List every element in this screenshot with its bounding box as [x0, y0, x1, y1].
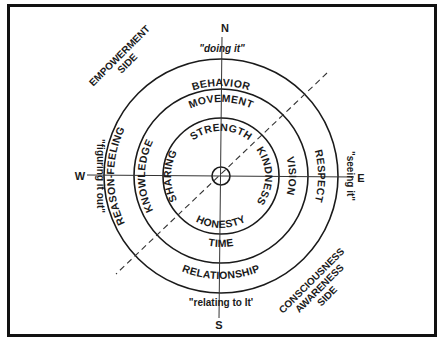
west-label: W [75, 170, 86, 182]
south-quote: "relating to It' [189, 297, 253, 308]
middle-east-label: VISION [285, 155, 299, 196]
outer-west-label: REASON-FEELING [104, 124, 127, 227]
outer-east-label: RESPECT [313, 148, 328, 204]
medicine-wheel-diagram: N S W E "doing it" "relating to It' "fig… [0, 0, 443, 343]
empowerment-side-label: EMPOWERMENT SIDE [87, 23, 160, 96]
outer-south-label: RELATIONSHIP [181, 262, 261, 281]
south-label: S [215, 319, 222, 331]
consciousness-side-label: CONSCIOUSNESS AWARENESS SIDE [277, 245, 363, 331]
north-quote: "doing it" [199, 43, 245, 54]
east-quote: "seeing it" [345, 151, 356, 201]
svg-text:CONSCIOUSNESS: CONSCIOUSNESS [277, 245, 347, 315]
svg-text:EMPOWERMENT: EMPOWERMENT [87, 23, 152, 88]
inner-south-label: HONESTY [195, 212, 247, 230]
middle-south-label: TIME [208, 236, 235, 249]
north-label: N [221, 22, 229, 34]
east-label: E [357, 172, 364, 184]
